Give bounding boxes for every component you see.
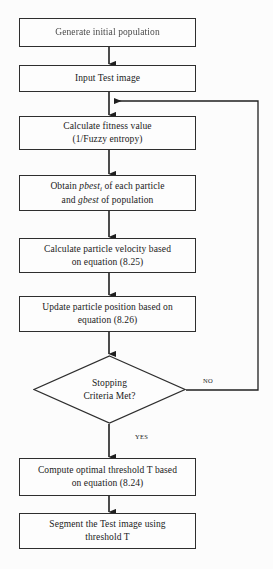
decision-label-line1: Stopping <box>92 377 127 390</box>
node-label-line1: Compute optimal threshold T based <box>38 465 177 475</box>
decision-label: Stopping Criteria Met? <box>33 355 186 424</box>
edge-label-yes: YES <box>135 433 148 440</box>
node-label: Segment the Test image using threshold T <box>20 518 195 544</box>
node-label: Input Test image <box>20 72 195 85</box>
node-label: Calculate particle velocity based on equ… <box>20 243 195 269</box>
pbest-prefix: Obtain <box>50 181 79 191</box>
node-calculate-particle-velocity[interactable]: Calculate particle velocity based on equ… <box>19 238 196 273</box>
node-generate-initial-population[interactable]: Generate initial population <box>19 18 196 47</box>
node-segment-test-image[interactable]: Segment the Test image using threshold T <box>19 513 196 549</box>
node-compute-optimal-threshold[interactable]: Compute optimal threshold T based on equ… <box>19 458 196 496</box>
node-label-line1: Obtain pbesti of each particle <box>50 181 164 191</box>
node-label-line2: equation (8.26) <box>24 314 191 327</box>
node-calculate-fitness-value[interactable]: Calculate fitness value (1/Fuzzy entropy… <box>19 116 196 150</box>
gbest-prefix: and <box>62 195 79 205</box>
node-label-line1: Segment the Test image using <box>49 519 165 529</box>
decision-label-line2: Criteria Met? <box>83 390 135 403</box>
flowchart-canvas: Generate initial population Input Test i… <box>0 0 273 569</box>
node-label: Update particle position based on equati… <box>20 301 195 327</box>
node-obtain-pbest-gbest[interactable]: Obtain pbesti of each particle and gbest… <box>19 175 196 211</box>
node-input-test-image[interactable]: Input Test image <box>19 65 196 92</box>
node-label: Generate initial population <box>20 26 195 39</box>
node-label-line1: Calculate fitness value <box>63 121 151 131</box>
node-stopping-criteria-met[interactable]: Stopping Criteria Met? <box>33 355 186 424</box>
node-label: Compute optimal threshold T based on equ… <box>20 464 195 490</box>
pbest-term: pbest <box>79 181 100 191</box>
node-label-line1: Calculate particle velocity based <box>44 244 171 254</box>
gbest-suffix: of population <box>99 195 154 205</box>
node-label-line1: Update particle position based on <box>42 302 172 312</box>
node-update-particle-position[interactable]: Update particle position based on equati… <box>19 296 196 332</box>
gbest-term: gbest <box>78 195 99 205</box>
node-label-line2: threshold T <box>24 531 191 544</box>
node-label-line2: on equation (8.24) <box>24 477 191 490</box>
edge-label-no: NO <box>203 377 213 384</box>
node-label: Obtain pbesti of each particle and gbest… <box>20 180 195 207</box>
node-label-line2: on equation (8.25) <box>24 256 191 269</box>
node-label-line2: (1/Fuzzy entropy) <box>24 133 191 146</box>
node-label: Calculate fitness value (1/Fuzzy entropy… <box>20 120 195 146</box>
pbest-suffix: of each particle <box>102 181 165 191</box>
node-label-line2: and gbest of population <box>24 194 191 207</box>
